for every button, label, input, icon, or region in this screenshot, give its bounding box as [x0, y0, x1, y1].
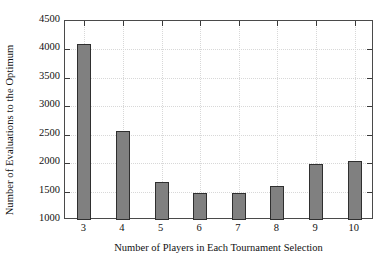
x-axis-title: Number of Players in Each Tournament Sel… [64, 242, 373, 253]
y-tick-mark [367, 49, 372, 50]
x-tick-label: 10 [339, 222, 369, 233]
y-tick-mark [65, 192, 70, 193]
x-tick-mark [277, 21, 278, 26]
y-tick-mark [367, 163, 372, 164]
y-tick-mark [65, 49, 70, 50]
gridline-horizontal [65, 163, 372, 164]
x-tick-label: 6 [184, 222, 214, 233]
gridline-vertical [200, 21, 201, 218]
gridline-vertical [239, 21, 240, 218]
bar [193, 193, 207, 220]
x-tick-label: 9 [300, 222, 330, 233]
gridline-horizontal [65, 106, 372, 107]
y-tick-mark [65, 135, 70, 136]
gridline-horizontal [65, 135, 372, 136]
x-tick-mark [84, 21, 85, 26]
y-tick-mark [65, 78, 70, 79]
y-tick-mark [367, 106, 372, 107]
y-tick-label: 3500 [16, 70, 60, 81]
gridline-horizontal [65, 49, 372, 50]
gridline-horizontal [65, 192, 372, 193]
y-tick-label: 1000 [16, 212, 60, 223]
bar [116, 131, 130, 220]
bar [155, 182, 169, 220]
y-tick-mark [367, 192, 372, 193]
x-tick-mark [162, 21, 163, 26]
x-tick-label: 4 [107, 222, 137, 233]
y-tick-label: 2000 [16, 155, 60, 166]
x-tick-label: 7 [223, 222, 253, 233]
x-tick-mark [239, 21, 240, 26]
y-tick-mark [65, 163, 70, 164]
y-tick-mark [367, 78, 372, 79]
y-tick-mark [65, 106, 70, 107]
x-tick-label: 3 [68, 222, 98, 233]
y-tick-label: 2500 [16, 127, 60, 138]
y-tick-mark [367, 135, 372, 136]
bar [77, 44, 91, 220]
y-tick-label: 1500 [16, 184, 60, 195]
bar [348, 161, 362, 220]
bar [232, 193, 246, 220]
gridline-horizontal [65, 78, 372, 79]
bar [270, 186, 284, 220]
x-tick-mark [123, 21, 124, 26]
x-tick-mark [200, 21, 201, 26]
x-tick-mark [316, 21, 317, 26]
y-tick-label: 4500 [16, 13, 60, 24]
x-tick-label: 8 [261, 222, 291, 233]
plot-area [64, 20, 373, 219]
bar [309, 164, 323, 220]
x-tick-mark [355, 21, 356, 26]
x-tick-label: 5 [146, 222, 176, 233]
y-tick-label: 3000 [16, 98, 60, 109]
chart-figure: Number of Evaluations to the Optimum 100… [0, 0, 386, 268]
y-tick-label: 4000 [16, 41, 60, 52]
